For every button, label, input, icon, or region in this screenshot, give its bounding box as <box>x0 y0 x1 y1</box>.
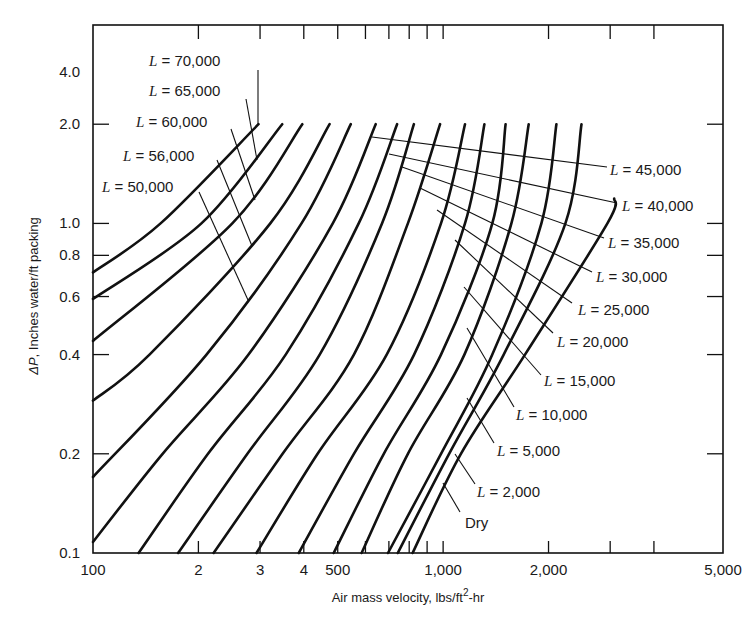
x-tick-label: 2,000 <box>530 561 568 578</box>
curve-label-l-2-000: L = 2,000 <box>476 483 540 500</box>
curve-label-symbol: L <box>609 162 618 178</box>
leader-line-l-65-000 <box>246 99 257 160</box>
curve-label-l-60-000: L = 60,000 <box>135 113 207 130</box>
curve-label-value: = 60,000 <box>144 113 207 130</box>
x-tick-label: 500 <box>325 561 350 578</box>
curve-label-value: Dry <box>465 514 489 531</box>
y-tick-label: 0.2 <box>59 445 80 462</box>
x-tick-label: 100 <box>80 561 105 578</box>
curve-label-value: = 35,000 <box>616 234 679 251</box>
leader-line-l-35-000 <box>402 167 604 238</box>
leader-line-l-45-000 <box>372 137 607 167</box>
x-tick-label: 3 <box>256 561 264 578</box>
curve-label-value: = 45,000 <box>618 161 681 178</box>
leader-line-dry <box>443 483 460 512</box>
curve-label-l-45-000: L = 45,000 <box>609 161 681 178</box>
curve-label-dry: Dry <box>465 514 489 531</box>
curve-l-56-000 <box>93 124 330 400</box>
curve-label-symbol: L <box>515 407 524 423</box>
curve-label-l-25-000: L = 25,000 <box>577 301 649 318</box>
curve-label-symbol: L <box>621 198 630 214</box>
curve-label-l-65-000: L = 65,000 <box>148 82 220 99</box>
pressure-drop-chart: 1002345001,0002,0005,000 0.10.20.40.60.8… <box>0 0 751 625</box>
curve-label-value: = 65,000 <box>157 82 220 99</box>
y-tick-label: 2.0 <box>59 115 80 132</box>
leader-line-l-30-000 <box>420 188 592 272</box>
curve-label-l-10-000: L = 10,000 <box>515 406 587 423</box>
curve-label-symbol: L <box>135 114 144 130</box>
curve-l-30-000 <box>214 124 441 553</box>
ticks-layer <box>93 25 723 553</box>
x-tick-label: 5,000 <box>704 561 742 578</box>
curve-label-l-50-000: L = 50,000 <box>101 178 173 195</box>
curve-label-symbol: L <box>556 334 565 350</box>
curve-label-l-30-000: L = 30,000 <box>595 268 667 285</box>
curve-label-value: = 10,000 <box>524 406 587 423</box>
y-tick-label: 0.4 <box>59 346 80 363</box>
y-tick-labels: 0.10.20.40.60.81.02.04.0 <box>59 63 80 561</box>
x-tick-label: 1,000 <box>424 561 462 578</box>
curve-label-symbol: L <box>577 302 586 318</box>
curve-label-symbol: L <box>148 83 157 99</box>
y-tick-label: 1.0 <box>59 214 80 231</box>
curve-label-value: = 2,000 <box>485 483 540 500</box>
curve-l-40-000 <box>139 124 398 553</box>
curve-label-value: = 70,000 <box>157 52 220 69</box>
curve-label-symbol: L <box>595 269 604 285</box>
curve-label-value: = 5,000 <box>505 442 560 459</box>
y-tick-label: 0.6 <box>59 288 80 305</box>
y-tick-label: 4.0 <box>59 63 80 80</box>
curve-label-symbol: L <box>607 235 616 251</box>
curve-label-symbol: L <box>101 179 110 195</box>
y-tick-label: 0.1 <box>59 544 80 561</box>
plot-frame <box>93 25 723 553</box>
leader-line-l-2-000 <box>455 454 475 484</box>
curve-label-symbol: L <box>476 484 485 500</box>
curve-label-l-15-000: L = 15,000 <box>543 372 615 389</box>
x-tick-labels: 1002345001,0002,0005,000 <box>80 561 741 578</box>
x-tick-label: 4 <box>300 561 308 578</box>
curve-label-value: = 25,000 <box>586 301 649 318</box>
curve-label-value: = 40,000 <box>630 197 693 214</box>
x-tick-label: 2 <box>194 561 202 578</box>
curve-label-l-20-000: L = 20,000 <box>556 333 628 350</box>
curve-label-symbol: L <box>122 148 131 164</box>
curve-label-symbol: L <box>496 443 505 459</box>
curve-label-l-35-000: L = 35,000 <box>607 234 679 251</box>
curve-label-symbol: L <box>543 373 552 389</box>
curve-label-value: = 30,000 <box>604 268 667 285</box>
curve-label-l-56-000: L = 56,000 <box>122 147 194 164</box>
curve-label-l-70-000: L = 70,000 <box>148 52 220 69</box>
curve-label-value: = 50,000 <box>110 178 173 195</box>
x-axis-label: Air mass velocity, lbs/ft2-hr <box>332 587 485 605</box>
curve-label-value: = 20,000 <box>565 333 628 350</box>
y-axis-label: ΔP, Inches water/ft packing <box>26 217 41 376</box>
curve-label-value: = 15,000 <box>552 372 615 389</box>
y-tick-label: 0.8 <box>59 246 80 263</box>
curve-label-symbol: L <box>148 53 157 69</box>
curve-label-l-5-000: L = 5,000 <box>496 442 560 459</box>
curve-label-l-40-000: L = 40,000 <box>621 197 693 214</box>
curve-label-value: = 56,000 <box>131 147 194 164</box>
